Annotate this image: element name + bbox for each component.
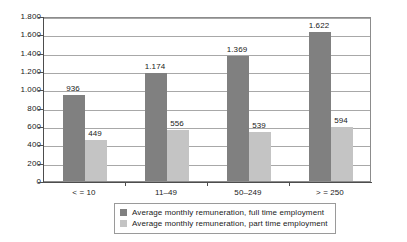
- bar-value-label: 594: [320, 117, 362, 125]
- bar-full-time: [63, 95, 85, 181]
- y-tick-label: 1.600: [5, 31, 41, 39]
- x-tick-mark: [289, 182, 290, 186]
- bar-value-label: 556: [156, 120, 198, 128]
- legend-swatch-part-time: [120, 220, 127, 227]
- bar-group: [309, 18, 353, 181]
- legend-label-part-time: Average monthly remuneration, part time …: [132, 219, 328, 228]
- legend-swatch-full-time: [120, 209, 127, 216]
- x-tick-mark: [125, 182, 126, 186]
- plot-area: [43, 17, 371, 182]
- bar-value-label: 1.174: [134, 63, 176, 71]
- bar-part-time: [331, 127, 353, 181]
- y-tick-label: 1.400: [5, 50, 41, 58]
- y-tick-label: 800: [5, 105, 41, 113]
- y-tick-label: 200: [5, 160, 41, 168]
- y-tick-label: 400: [5, 141, 41, 149]
- y-tick-label: 1.000: [5, 86, 41, 94]
- bar-part-time: [249, 132, 271, 181]
- bar-value-label: 1.622: [298, 22, 340, 30]
- bar-full-time: [227, 56, 249, 181]
- y-tick-label: 0: [5, 178, 41, 186]
- y-axis-line: [43, 17, 44, 183]
- y-tick-label: 1.800: [5, 13, 41, 21]
- bar-part-time: [85, 140, 107, 181]
- y-axis: 02004006008001.0001.2001.4001.6001.800: [0, 0, 41, 242]
- x-tick-mark: [207, 182, 208, 186]
- bar-chart: 02004006008001.0001.2001.4001.6001.800 <…: [0, 0, 407, 242]
- chart-legend: Average monthly remuneration, full time …: [114, 203, 336, 234]
- x-category-label: 50–249: [208, 188, 288, 197]
- legend-label-full-time: Average monthly remuneration, full time …: [132, 208, 324, 217]
- y-tick-label: 600: [5, 123, 41, 131]
- x-category-label: 11–49: [126, 188, 206, 197]
- bar-group: [145, 18, 189, 181]
- bar-group: [227, 18, 271, 181]
- legend-item-full-time: Average monthly remuneration, full time …: [120, 207, 330, 218]
- legend-item-part-time: Average monthly remuneration, part time …: [120, 218, 330, 229]
- x-category-label: > = 250: [290, 188, 370, 197]
- bar-part-time: [167, 130, 189, 181]
- x-category-label: < = 10: [44, 188, 124, 197]
- bar-value-label: 936: [52, 85, 94, 93]
- bar-value-label: 1.369: [216, 46, 258, 54]
- bar-group: [63, 18, 107, 181]
- bar-value-label: 449: [74, 130, 116, 138]
- bar-value-label: 539: [238, 122, 280, 130]
- y-tick-label: 1.200: [5, 68, 41, 76]
- bar-full-time: [309, 32, 331, 181]
